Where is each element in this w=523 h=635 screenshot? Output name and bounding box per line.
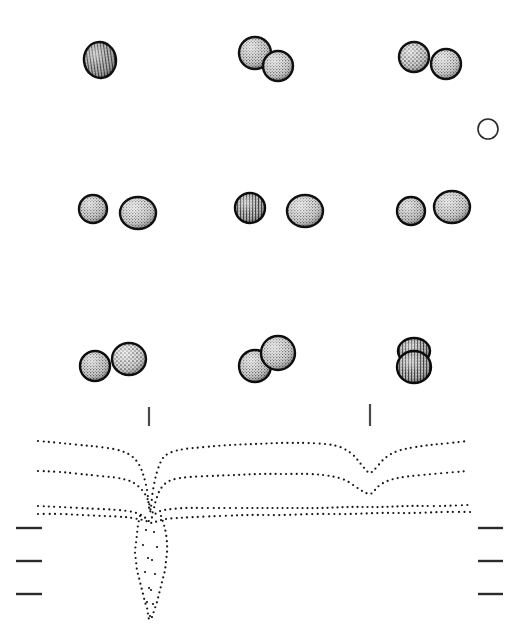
profile-dot [241, 514, 243, 516]
profile-dot [165, 518, 167, 520]
profile-dot [224, 444, 226, 446]
profile-dot [158, 591, 160, 593]
profile-dot [385, 456, 387, 458]
profile-dot [281, 507, 283, 509]
profile-dot [154, 606, 156, 608]
figure-svg [0, 0, 523, 635]
profile-dot [149, 508, 151, 510]
profile-dot [312, 473, 314, 475]
profile-dot [97, 475, 99, 477]
profile-dot [173, 478, 175, 480]
profile-dot [60, 513, 62, 515]
profile-dot [418, 474, 420, 476]
specimen-row2-col2-1 [235, 193, 265, 223]
profile-dot [147, 495, 149, 497]
profile-dot [186, 448, 188, 450]
profile-dot [148, 617, 150, 619]
profile-dot [149, 615, 151, 617]
profile-dot [134, 546, 136, 548]
profile-dot [191, 507, 193, 509]
profile-dot [423, 474, 425, 476]
profile-dot [319, 442, 321, 444]
profile-dot [196, 507, 198, 509]
specimen-row3-col1-1 [80, 351, 110, 381]
profile-dot [118, 477, 120, 479]
profile-dot [53, 506, 55, 508]
figure-background [0, 0, 523, 635]
profile-dot [155, 521, 157, 523]
profile-dot [311, 513, 313, 515]
profile-dot [144, 493, 146, 495]
profile-dot [113, 509, 115, 511]
profile-dot [148, 503, 150, 505]
profile-dot [169, 508, 171, 510]
profile-dot [168, 480, 170, 482]
profile-dot [154, 513, 156, 515]
profile-dot [416, 505, 418, 507]
profile-dot [114, 515, 116, 517]
profile-dot [463, 440, 465, 442]
profile-dot [339, 513, 341, 515]
profile-dot [254, 473, 256, 475]
profile-dot [186, 516, 188, 518]
profile-dot [102, 475, 104, 477]
profile-dot [151, 559, 153, 561]
profile-dot [165, 535, 167, 537]
profile-dot [295, 514, 297, 516]
profile-dot [236, 514, 238, 516]
profile-dot [151, 516, 153, 518]
profile-dot [86, 474, 88, 476]
profile-dot [297, 442, 299, 444]
profile-dot [139, 515, 141, 517]
profile-dot [120, 516, 122, 518]
profile-dot [392, 512, 394, 514]
profile-dot [201, 507, 203, 509]
profile-dot [292, 442, 294, 444]
profile-dot [251, 514, 253, 516]
profile-dot [86, 445, 88, 447]
profile-dot [235, 507, 237, 509]
profile-dot [280, 473, 282, 475]
profile-dot [419, 512, 421, 514]
profile-dot [284, 514, 286, 516]
profile-dot [101, 446, 103, 448]
profile-dot [49, 513, 51, 515]
profile-dot [145, 484, 147, 486]
profile-dot [422, 505, 424, 507]
profile-dot [321, 507, 323, 509]
profile-dot [276, 507, 278, 509]
profile-dot [382, 512, 384, 514]
profile-dot [439, 505, 441, 507]
profile-dot [218, 445, 220, 447]
profile-dot [135, 541, 137, 543]
profile-dot [150, 505, 152, 507]
profile-dot [150, 522, 152, 524]
profile-dot [278, 514, 280, 516]
profile-dot [180, 507, 182, 509]
profile-dot [302, 442, 304, 444]
profile-dot [241, 507, 243, 509]
profile-dot [103, 508, 105, 510]
profile-dot [191, 447, 193, 449]
profile-dot [140, 519, 142, 521]
profile-dot [181, 448, 183, 450]
profile-dot [269, 473, 271, 475]
profile-dot [430, 511, 432, 513]
profile-dot [163, 525, 165, 527]
profile-dot [91, 474, 93, 476]
profile-dot [463, 511, 465, 513]
profile-dot [175, 508, 177, 510]
profile-dot [264, 473, 266, 475]
profile-dot [446, 472, 448, 474]
profile-dot [251, 507, 253, 509]
profile-dot [154, 501, 156, 503]
specimen-row1-col3-1 [399, 42, 429, 72]
profile-dot [390, 453, 392, 455]
profile-dot [142, 544, 144, 546]
profile-dot [164, 566, 166, 568]
profile-dot [59, 506, 61, 508]
profile-dot [317, 473, 319, 475]
profile-dot [152, 487, 154, 489]
profile-dot [87, 514, 89, 516]
profile-dot [164, 509, 166, 511]
